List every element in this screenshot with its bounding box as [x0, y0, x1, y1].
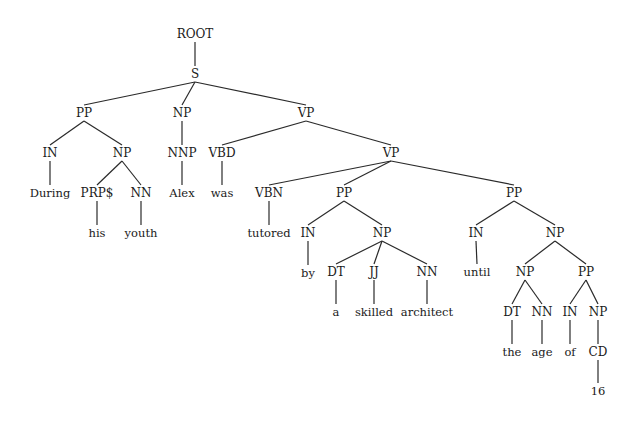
pos-tag-node: NNP [167, 146, 196, 160]
tree-edge [586, 280, 598, 304]
tree-edge [512, 280, 525, 304]
phrase-node: NP [373, 226, 392, 240]
tree-edge [269, 161, 391, 185]
leaf-word: his [89, 226, 106, 240]
tree-edge [344, 161, 391, 185]
leaf-word: youth [124, 226, 158, 240]
tree-edge [222, 121, 306, 145]
phrase-node: S [191, 67, 199, 81]
phrase-node: PP [578, 265, 594, 279]
leaf-word: architect [401, 305, 454, 319]
pos-tag-node: CD [589, 345, 608, 359]
phrase-node: VP [297, 106, 315, 120]
tree-node-labels: ROOTSPPNPVPINNPNNPVBDVPDuringPRP$NNAlexw… [30, 27, 608, 398]
tree-edge [84, 121, 122, 145]
phrase-node: PP [336, 186, 352, 200]
pos-tag-node: NN [532, 305, 553, 319]
tree-edge [50, 121, 84, 145]
tree-edge [391, 161, 514, 185]
tree-edge [514, 201, 555, 225]
leaf-word: age [531, 345, 552, 359]
leaf-word: by [301, 266, 315, 280]
tree-edge [84, 82, 195, 105]
tree-edge [525, 280, 542, 304]
leaf-word: skilled [355, 305, 394, 319]
pos-tag-node: IN [300, 226, 315, 240]
pos-tag-node: DT [503, 305, 521, 319]
leaf-word: the [503, 345, 522, 359]
pos-tag-node: IN [468, 226, 483, 240]
pos-tag-node: PRP$ [81, 186, 114, 200]
pos-tag-node: IN [562, 305, 577, 319]
pos-tag-node: VBD [207, 146, 235, 160]
tree-edge [476, 201, 514, 225]
leaf-word: Alex [168, 186, 195, 200]
leaf-word: of [564, 345, 576, 359]
phrase-node: NP [546, 226, 565, 240]
tree-edge [476, 241, 477, 264]
pos-tag-node: DT [327, 265, 345, 279]
leaf-word: was [211, 186, 234, 200]
tree-edge [382, 241, 427, 264]
phrase-node: VP [382, 146, 400, 160]
leaf-word: tutored [247, 226, 291, 240]
pos-tag-node: IN [42, 146, 57, 160]
tree-edge [555, 241, 586, 264]
phrase-node: PP [76, 106, 92, 120]
tree-edge [195, 82, 306, 105]
tree-edge [97, 161, 122, 185]
pos-tag-node: JJ [367, 265, 379, 279]
phrase-node: ROOT [177, 27, 214, 41]
parse-tree-diagram: ROOTSPPNPVPINNPNNPVBDVPDuringPRP$NNAlexw… [0, 0, 637, 423]
tree-edge [182, 82, 195, 105]
leaf-word: During [30, 186, 71, 200]
leaf-word: until [464, 265, 491, 279]
phrase-node: NP [589, 305, 608, 319]
phrase-node: NP [173, 106, 192, 120]
tree-edge [525, 241, 555, 264]
phrase-node: PP [506, 186, 522, 200]
tree-edges [50, 42, 598, 383]
leaf-word: a [333, 305, 340, 319]
tree-edge [570, 280, 586, 304]
leaf-word: 16 [591, 384, 606, 398]
tree-edge [122, 161, 141, 185]
tree-edge [344, 201, 382, 225]
tree-edge [306, 121, 391, 145]
pos-tag-node: NN [417, 265, 438, 279]
pos-tag-node: VBN [254, 186, 283, 200]
tree-edge [308, 201, 344, 225]
phrase-node: NP [516, 265, 535, 279]
phrase-node: NP [113, 146, 132, 160]
pos-tag-node: NN [131, 186, 152, 200]
